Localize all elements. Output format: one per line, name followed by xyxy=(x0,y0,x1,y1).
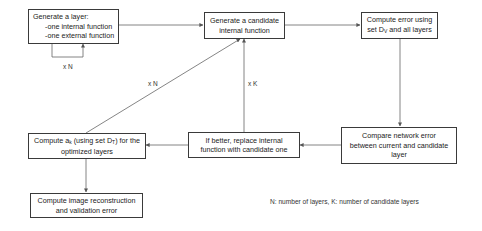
node-reconstruction-error: Compute image reconstruction and validat… xyxy=(30,193,143,218)
node-text: and validation error xyxy=(56,206,118,216)
edge-label-k: x K xyxy=(248,80,257,87)
edge-label-loop: x N xyxy=(63,63,73,70)
node-text: Generate a layer: xyxy=(33,12,89,22)
node-generate-layer: Generate a layer: -one internal function… xyxy=(28,9,119,44)
node-compute-error: Compute error using set DV and all layer… xyxy=(361,12,438,39)
node-text: internal function xyxy=(219,26,270,36)
node-compute-ak: Compute ak (using set DT) for the optimi… xyxy=(28,133,146,159)
node-text: Compare network error xyxy=(362,131,436,141)
node-text: layer xyxy=(391,150,407,160)
node-compare-error: Compare network error between current an… xyxy=(341,127,457,164)
node-text: -one internal function xyxy=(33,22,112,32)
node-text: between current and candidate xyxy=(350,141,449,151)
node-text: Compute ak (using set DT) for the xyxy=(34,136,140,148)
node-replace-function: If better, replace internal function wit… xyxy=(188,132,300,158)
node-text: Compute image reconstruction xyxy=(38,196,136,206)
node-text: function with candidate one xyxy=(200,145,287,155)
node-text: Compute error using xyxy=(367,15,433,25)
edge-label-n: x N xyxy=(148,80,158,87)
legend-note: N: number of layers, K: number of candid… xyxy=(270,198,419,205)
node-text: optimized layers xyxy=(61,147,113,157)
node-generate-candidate: Generate a candidate internal function xyxy=(204,12,285,39)
node-text: -one external function xyxy=(33,31,114,41)
node-text: set DV and all layers xyxy=(367,25,431,37)
node-text: If better, replace internal xyxy=(205,136,282,146)
node-text: Generate a candidate xyxy=(210,16,279,26)
